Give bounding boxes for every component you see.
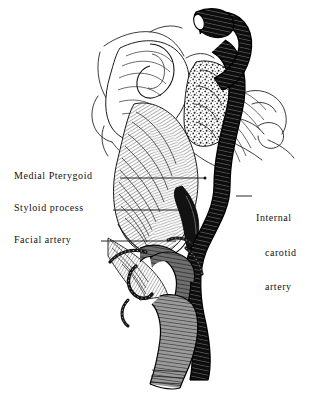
label-facial-artery: Facial artery <box>14 234 71 246</box>
label-internal-carotid-line3: artery <box>256 281 297 293</box>
label-internal-carotid-line1: Internal <box>256 212 297 224</box>
label-medial-pterygoid: Medial Pterygoid <box>14 170 93 182</box>
label-internal-carotid-line2: carotid <box>256 247 297 259</box>
anatomical-figure: Medial Pterygoid Styloid process Facial … <box>0 0 316 396</box>
label-styloid-process: Styloid process <box>14 202 84 214</box>
label-internal-carotid-artery: Internal carotid artery <box>256 189 297 316</box>
